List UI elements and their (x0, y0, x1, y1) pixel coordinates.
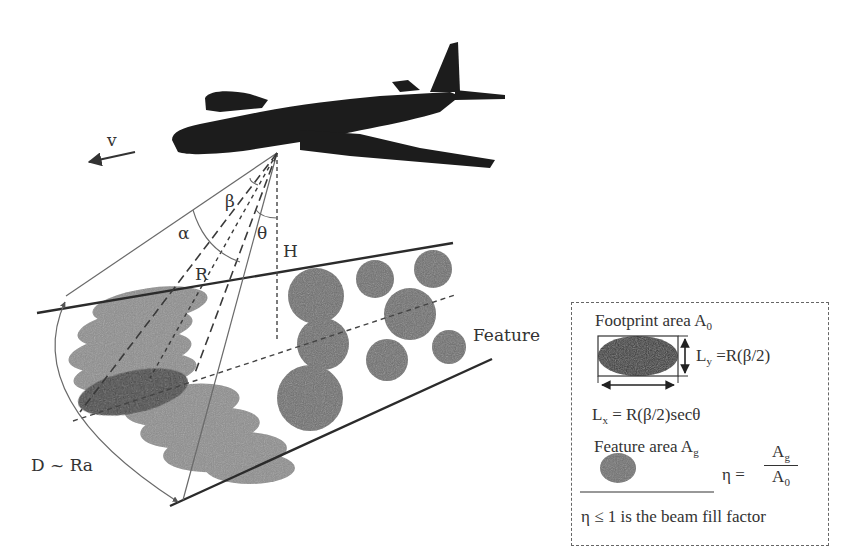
diagram-canvas: v β α θ H R Feature D ~ Ra Footprint are… (0, 0, 852, 560)
beam-fill-factor-note: η ≤ 1 is the beam fill factor (581, 508, 766, 525)
feature-area-title: Feature area Ag (594, 438, 699, 458)
eta-fraction: Ag A0 (764, 443, 798, 488)
feature-label: Feature (473, 327, 540, 344)
lx-formula: Lx = R(β/2)secθ (592, 406, 700, 426)
ly-formula: Ly =R(β/2) (696, 347, 770, 367)
beam-edge-3 (195, 153, 277, 373)
alpha-label: α (178, 225, 189, 242)
ground-features (277, 250, 466, 431)
footprint-swatch (598, 336, 678, 376)
velocity-arrow (89, 152, 135, 162)
theta-label: θ (257, 225, 267, 242)
cone-edge-left (66, 153, 277, 296)
aircraft (172, 42, 505, 168)
range-label: R (195, 266, 208, 283)
eta-symbol: η = (722, 466, 745, 483)
beta-label: β (225, 193, 235, 210)
swath-width-label: D ~ Ra (31, 457, 93, 474)
velocity-label: v (107, 132, 117, 149)
legend-box: Footprint area A0 Ly =R(β/2) Lx = R(β/2)… (571, 302, 829, 546)
height-label: H (283, 243, 298, 260)
beam-edge-2 (150, 153, 277, 378)
